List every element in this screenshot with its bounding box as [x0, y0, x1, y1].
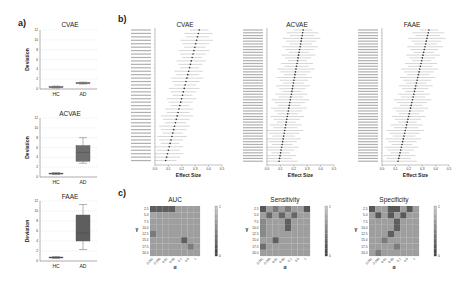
- svg-text:17.5: 17.5: [361, 245, 367, 249]
- svg-text:10.0: 10.0: [361, 226, 367, 230]
- svg-text:2.5: 2.5: [363, 207, 368, 211]
- svg-text:20.0: 20.0: [361, 251, 367, 255]
- svg-text:0: 0: [438, 254, 440, 258]
- svg-text:1: 1: [438, 205, 440, 209]
- svg-text:12.5: 12.5: [361, 232, 367, 236]
- svg-text:0.1: 0.1: [396, 257, 402, 263]
- svg-text:15.0: 15.0: [361, 238, 367, 242]
- svg-text:7.5: 7.5: [363, 220, 368, 224]
- svg-text:α: α: [392, 264, 396, 270]
- svg-text:0.01: 0.01: [380, 257, 387, 264]
- heatmap-specificity: 2.55.07.510.012.515.017.520.00.0010.0050…: [0, 0, 471, 286]
- svg-text:γ: γ: [355, 226, 358, 232]
- svg-text:0.05: 0.05: [387, 257, 394, 264]
- svg-text:1: 1: [412, 257, 416, 261]
- svg-text:0.5: 0.5: [403, 257, 409, 263]
- svg-text:5.0: 5.0: [363, 213, 368, 217]
